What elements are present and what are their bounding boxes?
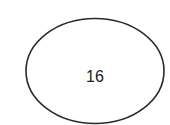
node-label: 16 [86, 68, 104, 85]
diagram-canvas: 16 [0, 0, 170, 125]
